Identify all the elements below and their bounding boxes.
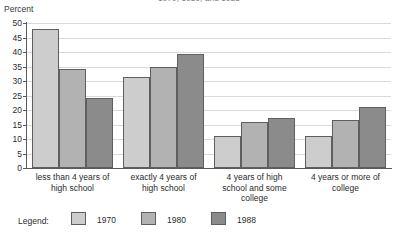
y-axis-tick-mark xyxy=(23,52,26,53)
y-axis-tick-mark xyxy=(23,125,26,126)
plot-area xyxy=(27,23,391,168)
legend-label-1980: 1980 xyxy=(167,215,186,225)
y-axis-tick-label: 50 xyxy=(0,19,22,28)
y-axis-tick-label: 30 xyxy=(0,77,22,86)
bar-1980-group-4[interactable] xyxy=(332,120,359,168)
y-axis-tick-mark xyxy=(23,110,26,111)
y-axis-tick-label: 35 xyxy=(0,63,22,72)
bar-1988-group-2[interactable] xyxy=(177,54,204,168)
y-axis-tick-label: 5 xyxy=(0,150,22,159)
bar-1980-group-1[interactable] xyxy=(59,69,86,168)
bar-1970-group-3[interactable] xyxy=(214,136,241,168)
chart-legend: Legend: 197019801988 xyxy=(0,208,398,236)
x-axis-line xyxy=(26,168,392,169)
y-axis-tick-label: 25 xyxy=(0,92,22,101)
bar-1970-group-2[interactable] xyxy=(123,77,150,168)
legend-swatch-1980 xyxy=(141,212,156,225)
y-axis-tick-mark xyxy=(23,38,26,39)
y-axis-tick-mark xyxy=(23,154,26,155)
y-axis-tick-mark xyxy=(23,168,26,169)
legend-label-1970: 1970 xyxy=(97,215,116,225)
y-axis-tick-mark xyxy=(23,139,26,140)
bar-1970-group-4[interactable] xyxy=(305,136,332,168)
y-axis-tick-label: 40 xyxy=(0,48,22,57)
y-axis-tick-mark xyxy=(23,23,26,24)
bar-1988-group-4[interactable] xyxy=(359,107,386,168)
y-axis-tick-mark xyxy=(23,81,26,82)
x-axis-category-label-line: 4 years or more of xyxy=(291,172,398,183)
x-axis-category-label-line: college xyxy=(291,183,398,194)
legend-swatch-1988 xyxy=(211,212,226,225)
y-axis-tick-label: 45 xyxy=(0,34,22,43)
bar-1980-group-3[interactable] xyxy=(241,122,268,168)
y-axis-tick-mark xyxy=(23,96,26,97)
legend-swatch-1970 xyxy=(71,212,86,225)
y-axis-tick-label: 20 xyxy=(0,106,22,115)
bar-1988-group-3[interactable] xyxy=(268,118,295,168)
x-axis-category-label-line: college xyxy=(200,193,310,204)
y-axis-tick-label: 10 xyxy=(0,135,22,144)
bar-1980-group-2[interactable] xyxy=(150,67,177,169)
legend-title: Legend: xyxy=(18,216,49,226)
x-axis-category-label-4: 4 years or more ofcollege xyxy=(291,172,398,193)
bar-1970-group-1[interactable] xyxy=(32,29,59,168)
chart-title: 1970, 1980, and 1988 xyxy=(0,0,398,3)
legend-label-1988: 1988 xyxy=(237,215,256,225)
y-axis-tick-mark xyxy=(23,67,26,68)
bar-1988-group-1[interactable] xyxy=(86,98,113,168)
y-axis-title: Percent xyxy=(4,4,33,14)
y-axis-tick-label: 15 xyxy=(0,121,22,130)
